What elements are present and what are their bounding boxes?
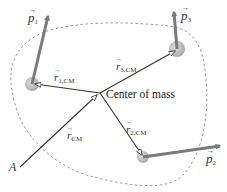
svg-text:→: → — [182, 4, 189, 12]
vector-rcm — [20, 95, 97, 167]
momentum-arrow-p1 — [32, 16, 48, 84]
vector-r2cm — [100, 93, 142, 155]
label-rcm: rCM → — [67, 125, 83, 143]
label-p1: p1 → — [27, 6, 39, 26]
svg-text:→: → — [54, 67, 60, 73]
svg-text:→: → — [29, 6, 36, 14]
label-p2: p2 → — [205, 147, 217, 167]
label-r2cm: r2,CM → — [126, 119, 147, 137]
svg-text:→: → — [126, 119, 132, 125]
label-r1cm: r1,CM → — [54, 67, 75, 85]
svg-text:r2,CM: r2,CM — [126, 123, 147, 137]
svg-text:→: → — [116, 56, 122, 62]
vector-r3cm — [100, 51, 175, 93]
svg-text:rCM: rCM — [67, 129, 83, 143]
svg-text:→: → — [67, 125, 73, 131]
svg-text:r1,CM: r1,CM — [54, 71, 75, 85]
label-r3cm: r3,CM → — [116, 56, 137, 74]
label-p3: p3 → — [180, 4, 192, 24]
svg-text:r3,CM: r3,CM — [116, 60, 137, 74]
label-center-of-mass: Center of mass — [106, 88, 176, 100]
center-of-mass-diagram: p1 → p3 → p2 → r1,CM → r3,CM → r2,CM → r… — [0, 0, 227, 192]
label-origin-a: A — [8, 160, 17, 174]
vector-r1cm — [35, 84, 100, 93]
svg-text:→: → — [207, 147, 214, 155]
